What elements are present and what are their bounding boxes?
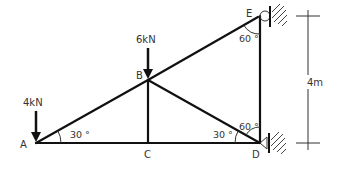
hatch-d-icon — [271, 132, 286, 154]
angle-label-d-left: 30 ° — [213, 129, 233, 140]
angle-label-a: 30 ° — [70, 129, 90, 140]
dimension-label: 4m — [307, 77, 323, 88]
support-d — [260, 132, 286, 154]
support-e — [260, 4, 287, 27]
truss-diagram: 4m 4kN 6kN A B C D E 30 ° 30 ° 60 ° 60 ° — [0, 0, 341, 171]
node-label-c: C — [144, 149, 151, 160]
angle-arc-a — [58, 131, 61, 144]
angle-label-e: 60 ° — [239, 33, 259, 44]
node-label-b: B — [136, 70, 143, 81]
node-label-d: D — [252, 149, 260, 160]
member-ab — [36, 80, 148, 143]
node-label-e: E — [246, 8, 252, 19]
load-label-a: 4kN — [23, 97, 43, 108]
pin-e-icon — [260, 11, 270, 21]
load-4kn: 4kN — [23, 97, 43, 142]
node-label-a: A — [20, 139, 27, 150]
member-bd — [148, 80, 260, 143]
hatch-e-icon — [272, 4, 287, 26]
angle-label-d-top: 60 ° — [239, 121, 259, 132]
load-label-b: 6kN — [136, 34, 156, 45]
dimension-4m: 4m — [296, 10, 328, 150]
member-be — [148, 17, 258, 80]
angle-arc-d-left — [235, 131, 238, 143]
